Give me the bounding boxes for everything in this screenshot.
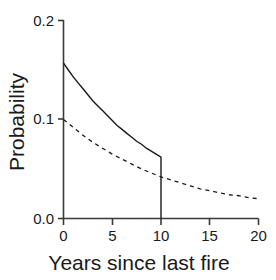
x-axis-title: Years since last fire xyxy=(48,251,229,274)
chart-background xyxy=(0,0,276,280)
chart-figure: 0.2 0.1 0.0 0 5 10 15 20 Years since las… xyxy=(0,0,276,280)
probability-decay-chart: 0.2 0.1 0.0 0 5 10 15 20 Years since las… xyxy=(0,0,276,280)
y-tick-label-0.2: 0.2 xyxy=(33,12,54,29)
x-tick-label-10: 10 xyxy=(153,227,170,244)
x-tick-label-15: 15 xyxy=(201,227,218,244)
x-tick-label-5: 5 xyxy=(108,227,116,244)
x-tick-label-20: 20 xyxy=(250,227,267,244)
y-tick-label-0.1: 0.1 xyxy=(33,110,54,127)
y-tick-label-0.0: 0.0 xyxy=(33,210,54,227)
y-axis-title: Probability xyxy=(5,72,28,171)
x-tick-label-0: 0 xyxy=(59,227,67,244)
